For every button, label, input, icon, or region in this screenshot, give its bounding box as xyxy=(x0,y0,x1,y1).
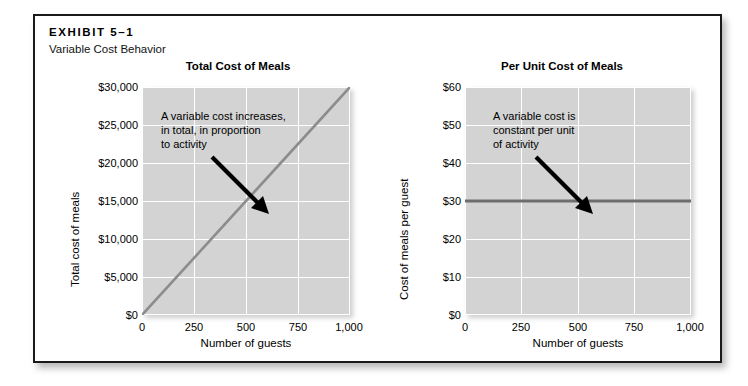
xtick-left-1: 250 xyxy=(171,322,217,333)
ytick-left-0: $0 xyxy=(68,310,138,321)
ytick-left-4: $20,000 xyxy=(68,158,138,169)
xtick-left-3: 750 xyxy=(275,322,321,333)
ytick-right-3: $30 xyxy=(401,196,461,207)
ytick-left-6: $30,000 xyxy=(68,82,138,93)
exhibit-label: EXHIBIT 5–1 xyxy=(49,25,166,40)
annotation-left: A variable cost increases, in total, in … xyxy=(161,109,286,151)
ytick-right-6: $60 xyxy=(401,82,461,93)
xtick-left-2: 500 xyxy=(223,322,269,333)
xtick-right-1: 250 xyxy=(498,322,544,333)
chart-per-unit-cost-of-meals: Per Unit Cost of Meals $0 $10 xyxy=(391,60,711,356)
xaxis-title-left: Number of guests xyxy=(142,337,350,349)
xtick-left-0: 0 xyxy=(119,322,165,333)
ytick-right-0: $0 xyxy=(401,310,461,321)
exhibit-figure: EXHIBIT 5–1 Variable Cost Behavior Total… xyxy=(0,0,748,386)
ytick-left-5: $25,000 xyxy=(68,120,138,131)
yaxis-title-left: Total cost of meals xyxy=(69,192,81,287)
exhibit-subtitle: Variable Cost Behavior xyxy=(49,41,166,57)
xtick-right-2: 500 xyxy=(555,322,601,333)
ytick-right-4: $40 xyxy=(401,158,461,169)
chart-title-total-cost: Total Cost of Meals xyxy=(57,60,387,72)
annotation-right: A variable cost is constant per unit of … xyxy=(493,109,576,151)
xtick-left-4: 1,000 xyxy=(326,322,372,333)
xaxis-title-right: Number of guests xyxy=(465,337,691,349)
yaxis-title-right: Cost of meals per guest xyxy=(398,179,410,300)
xtick-right-4: 1,000 xyxy=(667,322,713,333)
ytick-right-2: $20 xyxy=(401,234,461,245)
exhibit-box: EXHIBIT 5–1 Variable Cost Behavior Total… xyxy=(33,14,722,363)
ytick-right-5: $50 xyxy=(401,120,461,131)
xtick-right-3: 750 xyxy=(611,322,657,333)
exhibit-header: EXHIBIT 5–1 Variable Cost Behavior xyxy=(49,25,166,57)
ytick-right-1: $10 xyxy=(401,272,461,283)
chart-total-cost-of-meals: Total Cost of Meals $0 $5,000 xyxy=(57,60,387,356)
chart-title-per-unit-cost: Per Unit Cost of Meals xyxy=(391,60,711,72)
xtick-right-0: 0 xyxy=(442,322,488,333)
